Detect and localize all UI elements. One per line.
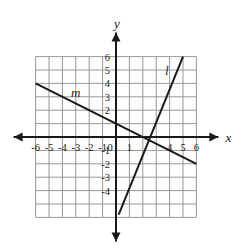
y-tick-label-5: 5 <box>105 65 110 76</box>
x-tick-label--4: -4 <box>58 142 67 153</box>
axis-and-line-names: yxlm <box>71 16 231 145</box>
x-tick-label--3: -3 <box>71 142 80 153</box>
y-axis-arrow-up <box>112 33 121 42</box>
y-tick-label--3: -3 <box>101 172 110 183</box>
y-tick-label--4: -4 <box>101 186 110 197</box>
graph-canvas: -6-5-4-3-2-11456065432-1-2-3-4 yxlm <box>0 0 242 251</box>
x-tick-label--2: -2 <box>85 142 94 153</box>
line-label-l: l <box>165 63 169 78</box>
y-tick-label-6: 6 <box>105 52 110 63</box>
x-axis-arrow-right <box>209 133 218 142</box>
x-axis-label: x <box>225 130 232 145</box>
line-label-m: m <box>71 85 80 100</box>
x-tick-label-5: 5 <box>180 142 185 153</box>
y-axis-arrow-down <box>112 232 121 241</box>
y-axis-label: y <box>112 16 120 31</box>
x-axis-arrow-left <box>14 133 23 142</box>
x-tick-label-6: 6 <box>194 142 199 153</box>
y-tick-label-4: 4 <box>105 78 111 89</box>
axes <box>14 33 219 242</box>
y-tick-label--1: -1 <box>101 145 110 156</box>
x-tick-label-1: 1 <box>127 142 132 153</box>
x-tick-label-4: 4 <box>167 142 173 153</box>
x-tick-label--6: -6 <box>31 142 40 153</box>
y-tick-label--2: -2 <box>101 159 110 170</box>
y-tick-label-3: 3 <box>105 92 110 103</box>
coordinate-plane-figure: -6-5-4-3-2-11456065432-1-2-3-4 yxlm <box>0 0 242 251</box>
x-tick-label--5: -5 <box>45 142 54 153</box>
y-tick-label-2: 2 <box>105 105 110 116</box>
